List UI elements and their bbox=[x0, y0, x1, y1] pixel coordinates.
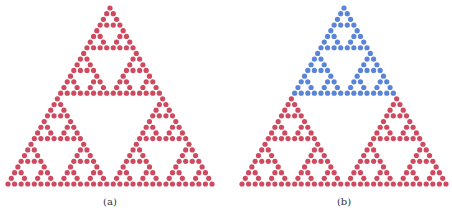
dot-r23-k1 bbox=[272, 136, 277, 141]
dot-r19-k19 bbox=[404, 113, 409, 118]
dot-r27-k27 bbox=[430, 159, 435, 164]
dot-r11-k3 bbox=[325, 68, 330, 73]
dot-r30-k10 bbox=[75, 176, 80, 181]
dot-r14-k10 bbox=[361, 85, 366, 90]
dot-r11-k11 bbox=[378, 68, 383, 73]
dot-r9-k0 bbox=[312, 57, 317, 62]
dot-r30-k2 bbox=[22, 176, 27, 181]
dot-r10-k8 bbox=[361, 62, 366, 67]
dot-r3-k0 bbox=[98, 22, 103, 27]
dot-r20-k4 bbox=[68, 119, 73, 124]
dot-r31-k28 bbox=[424, 181, 429, 186]
dot-r31-k31 bbox=[209, 181, 214, 186]
dot-r31-k27 bbox=[417, 181, 422, 186]
dot-r26-k24 bbox=[414, 153, 419, 158]
dot-r23-k19 bbox=[157, 136, 162, 141]
dot-r7-k0 bbox=[318, 45, 323, 50]
dot-r24-k16 bbox=[134, 142, 139, 147]
dot-r31-k6 bbox=[45, 181, 50, 186]
dot-r9-k1 bbox=[84, 57, 89, 62]
dot-r9-k9 bbox=[371, 57, 376, 62]
dot-r15-k9 bbox=[351, 91, 356, 96]
dot-r19-k16 bbox=[384, 113, 389, 118]
dot-r25-k25 bbox=[424, 147, 429, 152]
dot-r26-k26 bbox=[193, 153, 198, 158]
dot-r12-k4 bbox=[328, 74, 333, 79]
dot-r11-k1 bbox=[312, 68, 317, 73]
dot-r30-k14 bbox=[101, 176, 106, 181]
dot-r31-k23 bbox=[391, 181, 396, 186]
dot-r31-k9 bbox=[299, 181, 304, 186]
dot-r25-k17 bbox=[371, 147, 376, 152]
dot-r30-k18 bbox=[361, 176, 366, 181]
dot-r27-k17 bbox=[364, 159, 369, 164]
dot-r29-k12 bbox=[91, 170, 96, 175]
dot-r5-k0 bbox=[325, 34, 330, 39]
dot-r29-k12 bbox=[325, 170, 330, 175]
dot-r31-k10 bbox=[305, 181, 310, 186]
dot-r22-k0 bbox=[269, 130, 274, 135]
dot-r23-k22 bbox=[411, 136, 416, 141]
dot-r20-k0 bbox=[42, 119, 47, 124]
dot-r15-k4 bbox=[84, 91, 89, 96]
dot-r29-k8 bbox=[299, 170, 304, 175]
dot-r18-k18 bbox=[401, 108, 406, 113]
dot-r21-k20 bbox=[170, 125, 175, 130]
dot-r31-k25 bbox=[170, 181, 175, 186]
dot-r15-k11 bbox=[130, 91, 135, 96]
dot-r15-k12 bbox=[137, 91, 142, 96]
dot-r21-k21 bbox=[411, 125, 416, 130]
dot-r26-k18 bbox=[374, 153, 379, 158]
dot-r1-k1 bbox=[111, 11, 116, 16]
dot-r15-k4 bbox=[318, 91, 323, 96]
dot-r6-k0 bbox=[88, 39, 93, 44]
dot-r21-k5 bbox=[305, 125, 310, 130]
dot-r15-k15 bbox=[391, 91, 396, 96]
dot-r24-k16 bbox=[368, 142, 373, 147]
dot-r12-k0 bbox=[68, 74, 73, 79]
dot-r16-k0 bbox=[55, 96, 60, 101]
dot-r31-k23 bbox=[157, 181, 162, 186]
dot-r15-k3 bbox=[312, 91, 317, 96]
dot-r15-k0 bbox=[58, 91, 63, 96]
dot-r27-k18 bbox=[371, 159, 376, 164]
dot-r23-k3 bbox=[285, 136, 290, 141]
dot-r29-k16 bbox=[117, 170, 122, 175]
dot-r13-k5 bbox=[332, 79, 337, 84]
dot-r23-k5 bbox=[65, 136, 70, 141]
dot-r25-k1 bbox=[32, 147, 37, 152]
dot-r4-k4 bbox=[355, 28, 360, 33]
dot-r23-k17 bbox=[144, 136, 149, 141]
dot-r8-k8 bbox=[368, 51, 373, 56]
dot-r22-k16 bbox=[140, 130, 145, 135]
dot-r10-k2 bbox=[322, 62, 327, 67]
dot-r3-k2 bbox=[111, 22, 116, 27]
dot-r2-k2 bbox=[348, 17, 353, 22]
dot-r20-k4 bbox=[302, 119, 307, 124]
dot-r23-k7 bbox=[78, 136, 83, 141]
dot-r15-k6 bbox=[332, 91, 337, 96]
dot-r29-k20 bbox=[378, 170, 383, 175]
dot-r17-k0 bbox=[51, 102, 56, 107]
dot-r4-k0 bbox=[328, 28, 333, 33]
dot-r28-k8 bbox=[68, 164, 73, 169]
dot-r7-k2 bbox=[332, 45, 337, 50]
dot-r7-k1 bbox=[91, 45, 96, 50]
dot-r17-k16 bbox=[391, 102, 396, 107]
dot-r21-k1 bbox=[45, 125, 50, 130]
dot-r30-k24 bbox=[401, 176, 406, 181]
dot-r31-k30 bbox=[437, 181, 442, 186]
dot-r31-k20 bbox=[371, 181, 376, 186]
dot-r23-k6 bbox=[71, 136, 76, 141]
dot-r31-k13 bbox=[325, 181, 330, 186]
dot-r30-k4 bbox=[35, 176, 40, 181]
dot-r26-k16 bbox=[127, 153, 132, 158]
dot-r15-k5 bbox=[325, 91, 330, 96]
dot-r21-k21 bbox=[177, 125, 182, 130]
dot-r9-k9 bbox=[137, 57, 142, 62]
dot-r13-k9 bbox=[124, 79, 129, 84]
dot-r28-k4 bbox=[276, 164, 281, 169]
dot-r31-k29 bbox=[196, 181, 201, 186]
dot-r11-k10 bbox=[371, 68, 376, 73]
dot-r30-k2 bbox=[256, 176, 261, 181]
